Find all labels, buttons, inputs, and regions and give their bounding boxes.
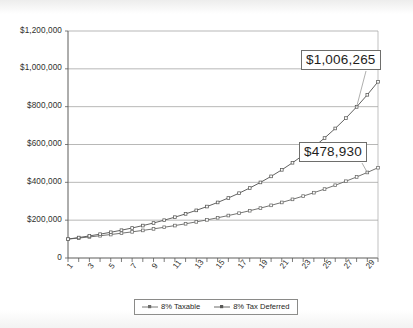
chart-legend: 8% Taxable 8% Tax Deferred: [134, 299, 298, 315]
y-axis-tick-label: 0: [57, 253, 62, 262]
legend-label-tax-deferred: 8% Tax Deferred: [233, 302, 289, 311]
y-axis-tick-label: $600,000: [27, 139, 62, 148]
legend-entry-taxable: 8% Taxable: [142, 302, 200, 311]
legend-marker-taxable: [142, 303, 158, 311]
y-axis-tick-label: $1,200,000: [20, 26, 62, 35]
y-axis-tick-label: $800,000: [27, 101, 62, 110]
y-axis-tick-label: $1,000,000: [20, 63, 62, 72]
legend-marker-tax-deferred: [214, 303, 230, 311]
taxable-value-callout: $478,930: [299, 142, 367, 162]
y-axis-tick-label: $400,000: [27, 177, 62, 186]
legend-label-taxable: 8% Taxable: [161, 302, 200, 311]
legend-entry-tax-deferred: 8% Tax Deferred: [214, 302, 289, 311]
y-axis-tick-label: $200,000: [27, 215, 62, 224]
tax-deferred-value-callout: $1,006,265: [301, 50, 381, 70]
